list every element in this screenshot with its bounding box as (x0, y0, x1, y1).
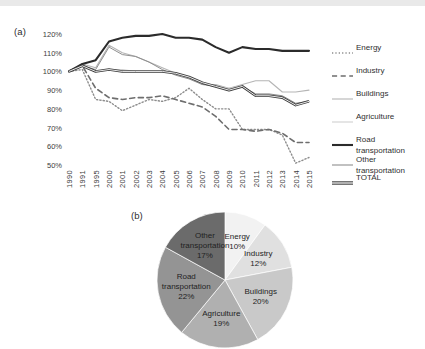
x-axis-tick: 1995 (92, 170, 101, 188)
line-chart-panel: (a) 120%110%100%90%80%70%60%50% 19901991… (0, 6, 425, 202)
y-axis: 120%110%100%90%80%70%60%50% (18, 6, 62, 202)
x-axis-tick: 2009 (225, 170, 234, 188)
x-axis-tick: 1990 (65, 170, 74, 188)
legend-label: Industry (356, 66, 384, 77)
legend-marker-total-icon (332, 174, 353, 184)
legend-label: Agriculture (356, 112, 394, 123)
y-axis-tick: 110% (22, 48, 62, 57)
legend-marker-agriculture-icon (332, 113, 353, 123)
chart-legend: EnergyIndustryBuildingsAgricultureRoad t… (332, 44, 425, 179)
legend-marker-other-transportation-icon (332, 156, 353, 166)
legend-marker-energy-icon (332, 44, 353, 54)
y-axis-tick: 80% (22, 104, 62, 113)
legend-marker-buildings-icon (332, 90, 353, 100)
y-axis-tick: 120% (22, 30, 62, 39)
x-axis-tick: 2005 (172, 170, 181, 188)
x-axis-tick: 2003 (145, 170, 154, 188)
legend-marker-road-transportation-icon (332, 136, 353, 146)
x-axis-tick: 2006 (185, 170, 194, 188)
x-axis-tick: 1991 (78, 170, 87, 188)
pie-wrapper: Energy 10%Industry 12%Buildings 20%Agric… (155, 210, 295, 349)
legend-label: Road transportation (356, 135, 405, 156)
x-axis: 1990199119952000200120022003200420052006… (63, 6, 315, 202)
x-axis-tick: 2015 (305, 170, 314, 188)
y-axis-tick: 50% (22, 161, 62, 170)
legend-label: Energy (356, 43, 381, 54)
line-plot-wrapper: 120%110%100%90%80%70%60%50% 199019911995… (0, 6, 330, 202)
y-axis-tick: 70% (22, 123, 62, 132)
x-axis-tick: 2014 (292, 170, 301, 188)
x-axis-tick: 2012 (265, 170, 274, 188)
y-axis-tick: 90% (22, 86, 62, 95)
panel-b-label: (b) (131, 210, 143, 221)
pie-chart-panel: (b) Energy 10%Industry 12%Buildings 20%A… (0, 202, 425, 349)
x-axis-tick: 2010 (238, 170, 247, 188)
legend-label: Buildings (356, 89, 388, 100)
x-axis-tick: 2001 (118, 170, 127, 188)
x-axis-tick: 2011 (252, 170, 261, 187)
pie-svg (155, 210, 295, 349)
y-axis-tick: 60% (22, 142, 62, 151)
x-axis-tick: 2004 (158, 170, 167, 188)
x-axis-tick: 2007 (198, 170, 207, 188)
legend-label: TOTAL (356, 173, 381, 184)
y-axis-tick: 100% (22, 67, 62, 76)
legend-marker-industry-icon (332, 67, 353, 77)
x-axis-tick: 2013 (278, 170, 287, 188)
x-axis-tick: 2000 (105, 170, 114, 188)
x-axis-tick: 2002 (132, 170, 141, 188)
x-axis-tick: 2008 (212, 170, 221, 188)
